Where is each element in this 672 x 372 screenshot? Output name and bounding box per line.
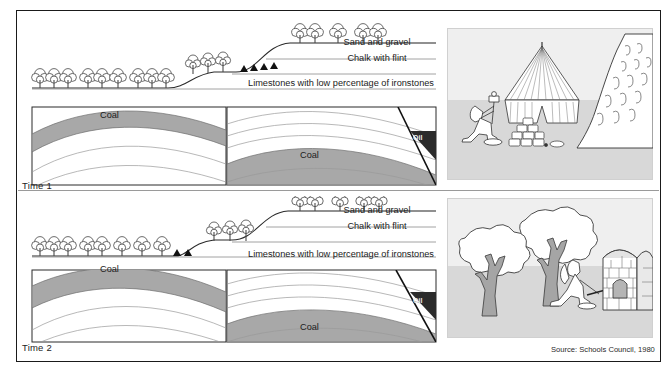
panel-divider <box>18 190 659 191</box>
oil-label-time-2: Oil <box>413 297 422 304</box>
kiln-opening <box>613 280 627 299</box>
illustration-bottom <box>447 198 653 338</box>
source-note: Source: Schools Council, 1980 <box>551 345 655 354</box>
coal-label-right-time-1: Coal <box>300 150 319 160</box>
coal-label-right-time-2: Coal <box>300 322 319 332</box>
time-label-2: Time 2 <box>22 342 52 353</box>
conifer-trees-time-1 <box>240 62 278 72</box>
illustration-top <box>447 28 653 180</box>
woodland-kiln-scene <box>447 198 653 338</box>
strata-label-sand-and-gravel-time-2: Sand and gravel <box>322 205 432 215</box>
coal-label-left-time-2: Coal <box>100 264 119 274</box>
strata-label-sand-and-gravel-time-1: Sand and gravel <box>322 37 432 47</box>
strata-label-chalk-with-flint-time-2: Chalk with flint <box>322 221 432 231</box>
oil-label-time-1: Oil <box>413 134 422 141</box>
figure-root: Sand and gravel Chalk with flint Limesto… <box>0 0 672 372</box>
stone-kiln-icon <box>603 250 653 310</box>
strata-label-limestones-time-2: Limestones with low percentage of ironst… <box>236 249 446 259</box>
strata-label-limestones-time-1: Limestones with low percentage of ironst… <box>236 78 446 88</box>
coal-label-left-time-1: Coal <box>100 110 119 120</box>
prehistoric-camp-scene <box>447 28 653 180</box>
strata-label-chalk-with-flint-time-1: Chalk with flint <box>322 53 432 63</box>
